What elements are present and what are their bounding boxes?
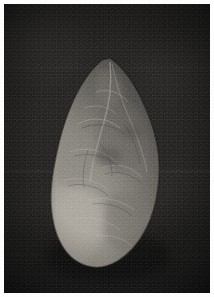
photograph-plate [4, 4, 210, 293]
photograph-frame: handaxe [0, 0, 214, 297]
grain-coarse [4, 4, 210, 293]
